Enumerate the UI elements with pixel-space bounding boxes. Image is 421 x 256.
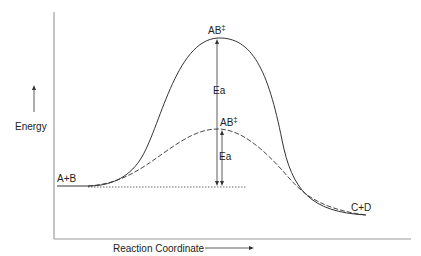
catalyzed-transition-state-label: AB‡: [220, 115, 238, 128]
uncatalyzed-curve: [57, 38, 366, 215]
x-axis-label: Reaction Coordinate: [113, 243, 205, 254]
catalyzed-ea-label: Ea: [219, 151, 232, 162]
y-axis-label: Energy: [15, 121, 47, 132]
uncatalyzed-transition-state-label: AB‡: [208, 23, 226, 36]
products-label: C+D: [351, 202, 371, 213]
reactants-label: A+B: [57, 173, 77, 184]
uncatalyzed-ea-label: Ea: [213, 85, 226, 96]
energy-diagram: Energy Reaction Coordinate AB‡ Ea AB‡ Ea…: [0, 0, 421, 256]
